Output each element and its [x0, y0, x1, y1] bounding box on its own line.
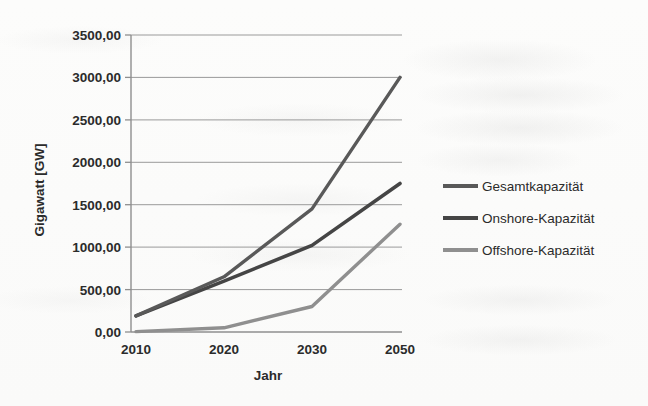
legend-item-onshore-kapazitaet[interactable]: Onshore-Kapazität: [443, 211, 595, 226]
x-tick-label-2010: 2010: [121, 342, 151, 357]
series-line-gesamtkapazitaet: [136, 77, 400, 316]
x-tick-label-2020: 2020: [209, 342, 239, 357]
y-tick-label-1000: 1000,00: [72, 240, 121, 255]
y-tick-label-2000: 2000,00: [72, 155, 121, 170]
x-tick-label-2030: 2030: [297, 342, 327, 357]
legend-item-gesamtkapazitaet[interactable]: Gesamtkapazität: [443, 179, 584, 194]
y-tick-label-3500: 3500,00: [72, 28, 121, 43]
series-line-offshore-kapazitaet: [136, 224, 400, 331]
legend-item-offshore-kapazitaet[interactable]: Offshore-Kapazität: [443, 243, 595, 258]
y-tick-label-500: 500,00: [80, 283, 121, 298]
legend-label-onshore-kapazitaet: Onshore-Kapazität: [482, 211, 595, 226]
y-axis-title: Gigawatt [GW]: [32, 144, 47, 237]
gridlines: [131, 35, 402, 332]
legend-label-gesamtkapazitaet: Gesamtkapazität: [482, 179, 584, 194]
x-axis-tick-labels: 2010 2020 2030 2050: [121, 342, 415, 357]
y-tick-label-0: 0,00: [95, 325, 121, 340]
chart-legend: Gesamtkapazität Onshore-Kapazität Offsho…: [443, 179, 595, 258]
y-axis-tick-labels: 3500,00 3000,00 2500,00 2000,00 1500,00 …: [72, 28, 121, 340]
chart-svg: 3500,00 3000,00 2500,00 2000,00 1500,00 …: [0, 0, 648, 406]
y-axis: [125, 35, 131, 332]
y-tick-label-3000: 3000,00: [72, 70, 121, 85]
y-tick-label-1500: 1500,00: [72, 198, 121, 213]
legend-label-offshore-kapazitaet: Offshore-Kapazität: [482, 243, 595, 258]
x-tick-label-2050: 2050: [385, 342, 415, 357]
x-axis-title: Jahr: [254, 368, 283, 383]
y-tick-label-2500: 2500,00: [72, 113, 121, 128]
wind-capacity-line-chart: 3500,00 3000,00 2500,00 2000,00 1500,00 …: [0, 0, 648, 406]
series-line-onshore-kapazitaet: [136, 184, 400, 316]
